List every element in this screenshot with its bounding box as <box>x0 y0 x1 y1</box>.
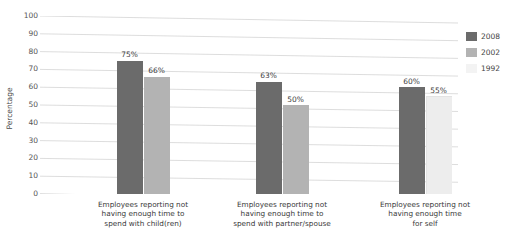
category-line: having enough time to <box>77 209 209 218</box>
bar-chart: Percentage 1009080706050403020100 75%66%… <box>0 0 511 247</box>
legend-swatch-2002 <box>466 48 477 57</box>
bar-value-label-2002-group-1: 66% <box>139 67 175 75</box>
legend-label-1992: 1992 <box>481 64 500 73</box>
y-tick-40: 40 <box>4 119 38 127</box>
legend-item-1992: 1992 <box>466 60 511 76</box>
x-category-label-2: Employees reporting nothaving enough tim… <box>209 200 355 228</box>
legend: 200820021992 <box>466 28 511 76</box>
bar-value-label-2008-group-3: 60% <box>394 78 430 86</box>
bar-value-label-1992-group-3: 55% <box>421 87 457 95</box>
category-line: Employees reporting not <box>209 200 355 209</box>
category-line: spend with partner/spouse <box>209 219 355 228</box>
category-line: having enough time <box>359 209 491 218</box>
y-tick-100: 100 <box>4 12 38 20</box>
y-axis-tick-labels: 1009080706050403020100 <box>0 16 38 194</box>
bar-2002-group-2 <box>283 105 309 194</box>
legend-item-2008: 2008 <box>466 28 511 44</box>
bar-2008-group-3 <box>399 87 425 194</box>
y-tick-10: 10 <box>4 172 38 180</box>
legend-swatch-1992 <box>466 64 477 73</box>
bar-2002-group-1 <box>144 77 170 194</box>
bar-value-label-2002-group-2: 50% <box>278 96 314 104</box>
category-line: for self <box>359 219 491 228</box>
y-tick-50: 50 <box>4 101 38 109</box>
bar-value-label-2008-group-2: 63% <box>251 72 287 80</box>
y-tick-60: 60 <box>4 83 38 91</box>
y-tick-80: 80 <box>4 48 38 56</box>
bar-value-label-2008-group-1: 75% <box>112 51 148 59</box>
x-category-label-1: Employees reporting nothaving enough tim… <box>77 200 209 228</box>
category-line: spend with child(ren) <box>77 219 209 228</box>
legend-label-2002: 2002 <box>481 48 500 57</box>
legend-swatch-2008 <box>466 32 477 41</box>
x-axis-category-labels: Employees reporting nothaving enough tim… <box>40 200 458 247</box>
bar-series-layer: 75%66%63%50%60%55% <box>40 16 458 194</box>
y-tick-20: 20 <box>4 154 38 162</box>
y-tick-30: 30 <box>4 137 38 145</box>
bar-2008-group-1 <box>117 61 143 195</box>
bar-1992-group-3 <box>426 96 452 194</box>
category-line: having enough time to <box>209 209 355 218</box>
legend-label-2008: 2008 <box>481 32 500 41</box>
y-tick-0: 0 <box>4 190 38 198</box>
y-tick-90: 90 <box>4 30 38 38</box>
category-line: Employees reporting not <box>359 200 491 209</box>
x-category-label-3: Employees reporting nothaving enough tim… <box>359 200 491 228</box>
category-line: Employees reporting not <box>77 200 209 209</box>
y-tick-70: 70 <box>4 65 38 73</box>
legend-item-2002: 2002 <box>466 44 511 60</box>
